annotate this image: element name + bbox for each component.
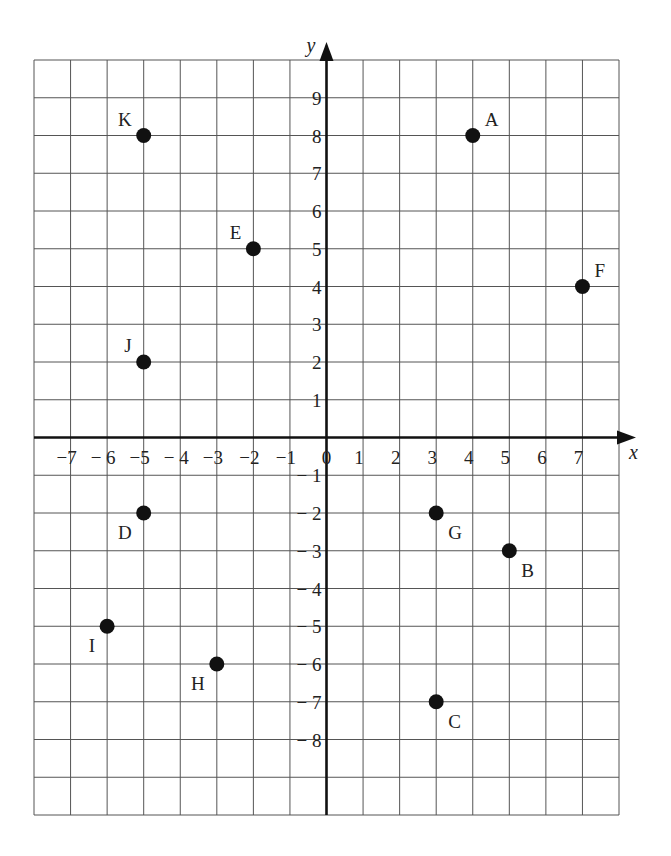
point-marker-icon <box>429 506 444 521</box>
point-a: A <box>465 109 499 144</box>
x-tick-label: − 6 <box>91 447 116 468</box>
x-tick-label: −5 <box>130 447 150 468</box>
y-tick-label: 6 <box>312 201 322 222</box>
point-label: I <box>89 635 95 656</box>
x-tick-label: 1 <box>354 447 364 468</box>
point-marker-icon <box>502 543 517 558</box>
y-axis-arrow-icon <box>320 42 334 61</box>
x-tick-label: 0 <box>322 447 332 468</box>
point-k: K <box>118 109 151 144</box>
point-d: D <box>118 506 151 544</box>
point-label: B <box>521 560 534 581</box>
axes: xy <box>34 34 638 815</box>
x-tick-label: 2 <box>391 447 401 468</box>
y-tick-label: − 1 <box>297 465 322 486</box>
y-tick-label: − 7 <box>297 692 322 713</box>
x-tick-label: −2 <box>239 447 259 468</box>
point-label: F <box>594 260 605 281</box>
y-tick-label: 2 <box>312 352 322 373</box>
y-tick-label: 4 <box>312 277 322 298</box>
point-label: H <box>191 673 205 694</box>
y-tick-label: 1 <box>312 390 322 411</box>
point-label: K <box>118 109 132 130</box>
point-marker-icon <box>575 279 590 294</box>
tick-labels: −7− 6−5− 4−3−2−101234567987654321− 1− 2−… <box>56 88 583 751</box>
x-axis-label: x <box>628 441 638 463</box>
point-label: J <box>124 335 131 356</box>
x-tick-label: 3 <box>427 447 437 468</box>
x-tick-label: −1 <box>276 447 296 468</box>
y-tick-label: 7 <box>312 163 322 184</box>
y-tick-label: 8 <box>312 126 322 147</box>
point-label: C <box>448 711 461 732</box>
y-tick-label: − 5 <box>297 616 322 637</box>
x-tick-label: − 4 <box>164 447 189 468</box>
x-tick-label: 4 <box>464 447 474 468</box>
x-tick-label: 7 <box>574 447 584 468</box>
x-tick-label: −3 <box>203 447 223 468</box>
point-i: I <box>89 619 115 657</box>
point-label: D <box>118 522 132 543</box>
x-tick-label: 6 <box>537 447 547 468</box>
y-tick-label: − 2 <box>297 503 322 524</box>
y-tick-label: − 4 <box>297 579 322 600</box>
point-marker-icon <box>465 128 480 143</box>
point-marker-icon <box>100 619 115 634</box>
point-marker-icon <box>209 657 224 672</box>
y-tick-label: − 6 <box>297 654 322 675</box>
point-marker-icon <box>246 241 261 256</box>
y-tick-label: 3 <box>312 314 322 335</box>
plotted-points: ABCDEFGHIJK <box>89 109 605 732</box>
point-marker-icon <box>136 128 151 143</box>
point-c: C <box>429 694 461 732</box>
point-marker-icon <box>136 355 151 370</box>
point-label: A <box>485 109 499 130</box>
point-e: E <box>230 222 261 257</box>
point-label: G <box>448 522 462 543</box>
point-b: B <box>502 543 534 581</box>
y-tick-label: 9 <box>312 88 322 109</box>
point-h: H <box>191 657 224 695</box>
coordinate-plane: xy −7− 6−5− 4−3−2−101234567987654321− 1−… <box>0 0 671 856</box>
x-tick-label: −7 <box>56 447 76 468</box>
y-tick-label: − 8 <box>297 730 322 751</box>
point-g: G <box>429 506 463 544</box>
y-tick-label: 5 <box>312 239 322 260</box>
y-axis-label: y <box>305 34 316 57</box>
y-tick-label: − 3 <box>297 541 322 562</box>
point-marker-icon <box>429 694 444 709</box>
point-label: E <box>230 222 242 243</box>
x-tick-label: 5 <box>501 447 511 468</box>
point-f: F <box>575 260 605 295</box>
point-j: J <box>124 335 151 370</box>
point-marker-icon <box>136 506 151 521</box>
